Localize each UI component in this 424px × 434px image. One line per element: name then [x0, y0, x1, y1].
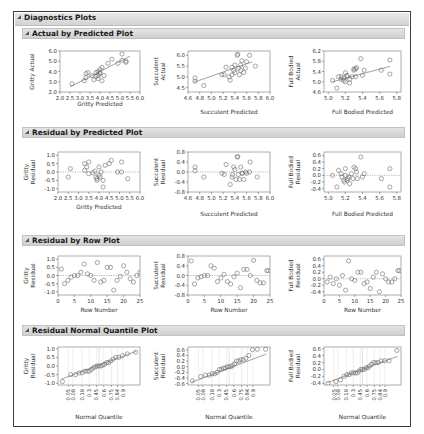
- disclosure-triangle-icon[interactable]: [17, 15, 21, 19]
- y-axis-label: Residual: [160, 353, 166, 378]
- x-tick-label: 0.3: [216, 389, 222, 397]
- y-tick-label: 0.4: [176, 263, 185, 269]
- x-axis-label: Row Number: [210, 307, 248, 313]
- y-axis-label: Actual: [295, 62, 301, 81]
- x-tick-label: 4.8: [195, 195, 204, 201]
- x-axis-label: Normal Quantile: [205, 414, 253, 420]
- y-axis-label: Full Bodied: [288, 259, 294, 291]
- x-tick-label: 5.6: [242, 195, 251, 201]
- x-axis-label: Row Number: [344, 307, 382, 313]
- gritty-actual-by-predicted-plot[interactable]: 2.03.04.05.06.02.02.53.03.54.04.55.05.56…: [14, 40, 146, 120]
- x-tick-label: 5.0: [324, 195, 333, 201]
- y-tick-label: 0.0: [312, 276, 321, 282]
- x-tick-label: 0.9: [382, 389, 388, 397]
- x-tick-label: 0.45: [357, 389, 363, 401]
- x-tick-label: 0.08: [200, 389, 206, 401]
- section-header-residual-by-predicted[interactable]: Residual by Predicted Plot: [22, 127, 405, 138]
- y-tick-label: 6.0: [176, 52, 185, 58]
- y-tick-label: 0.5: [46, 264, 55, 270]
- x-tick-label: 25: [267, 298, 274, 304]
- x-tick-label: 2.0: [56, 95, 65, 101]
- succulent-actual-by-predicted-plot[interactable]: 4.55.05.56.04.64.85.05.25.45.65.86.0Succ…: [146, 40, 281, 120]
- y-tick-label: 0.4: [312, 263, 321, 269]
- y-tick-label: 6.0: [48, 48, 57, 54]
- y-axis-label: Residual: [30, 353, 36, 378]
- y-tick-label: 5.4: [312, 69, 321, 75]
- y-axis-label: Gritty: [23, 163, 30, 180]
- x-tick-label: 5.4: [231, 95, 240, 101]
- x-tick-label: 2.5: [66, 95, 75, 101]
- x-axis-label: Gritty Predicted: [77, 101, 123, 108]
- x-tick-label: 0.6: [101, 389, 107, 397]
- y-tick-label: 0.0: [46, 169, 55, 175]
- x-tick-label: 5.6: [375, 95, 384, 101]
- y-tick-label: -0.8: [174, 292, 185, 298]
- gritty-normal-quantile-plot[interactable]: -1.0-0.50.00.51.00.050.080.180.30.450.60…: [14, 337, 146, 427]
- x-tick-label: 0: [186, 298, 190, 304]
- y-axis-label: Residual: [160, 159, 166, 184]
- diagnostics-plots-header[interactable]: Diagnostics Plots: [15, 13, 409, 26]
- disclosure-triangle-icon[interactable]: [25, 328, 29, 332]
- y-axis-label: Gritty: [23, 357, 30, 374]
- x-tick-label: 20: [250, 298, 257, 304]
- y-axis-label: Succulent: [153, 157, 159, 186]
- y-tick-label: -0.4: [174, 282, 185, 288]
- disclosure-triangle-icon[interactable]: [25, 31, 29, 35]
- gritty-residual-by-row-plot[interactable]: -1.0-0.50.00.51.00510152025GrittyResidua…: [14, 246, 146, 316]
- y-axis-label: Residual: [295, 159, 301, 184]
- succulent-residual-by-predicted-plot[interactable]: -0.8-0.40.00.40.84.64.85.05.25.45.65.86.…: [146, 140, 281, 225]
- x-tick-label: 25: [398, 298, 405, 304]
- y-tick-label: 0.0: [46, 273, 55, 279]
- x-tick-label: 20: [120, 298, 127, 304]
- y-tick-label: 0.4: [312, 159, 321, 165]
- x-tick-label: 0.45: [223, 389, 229, 401]
- section-header-residual-normal-quantile[interactable]: Residual Normal Quantile Plot: [22, 325, 405, 336]
- x-tick-label: 4.5: [105, 195, 114, 201]
- full-bodied-residual-by-row-plot[interactable]: -0.4-0.20.00.20.40.60510152025Full Bodie…: [281, 246, 411, 316]
- y-tick-label: 0.0: [46, 363, 55, 369]
- y-tick-label: 5.8: [312, 58, 321, 64]
- y-tick-label: 3.0: [48, 79, 57, 85]
- full-bodied-residual-by-predicted-plot[interactable]: -0.4-0.20.00.20.40.65.05.25.45.65.8Full …: [281, 140, 411, 225]
- y-axis-label: Residual: [160, 263, 166, 288]
- x-tick-label: 3.0: [74, 195, 83, 201]
- y-axis-label: Full Bodied: [288, 350, 294, 382]
- x-tick-label: 5.0: [324, 95, 333, 101]
- x-tick-label: 0.6: [231, 389, 237, 397]
- y-axis-label: Succulent: [153, 351, 159, 380]
- x-tick-label: 5.8: [392, 195, 401, 201]
- y-tick-label: 0.4: [176, 159, 185, 165]
- section-header-residual-by-row[interactable]: Residual by Row Plot: [22, 235, 405, 246]
- x-tick-label: 5.4: [358, 95, 367, 101]
- disclosure-triangle-icon[interactable]: [25, 238, 29, 242]
- x-tick-label: 0.45: [93, 389, 99, 401]
- y-tick-label: -0.5: [44, 372, 55, 378]
- y-tick-label: -0.4: [310, 186, 321, 192]
- section-title: Actual by Predicted Plot: [32, 28, 133, 40]
- x-tick-label: 15: [367, 298, 374, 304]
- section-header-actual-by-predicted[interactable]: Actual by Predicted Plot: [22, 28, 405, 39]
- y-tick-label: -1.0: [44, 380, 55, 386]
- x-tick-label: 0.18: [79, 389, 85, 401]
- x-tick-label: 15: [234, 298, 241, 304]
- x-tick-label: 6.0: [266, 195, 275, 201]
- succulent-normal-quantile-plot[interactable]: -0.6-0.4-0.20.00.20.40.60.050.080.180.30…: [146, 337, 281, 427]
- x-tick-label: 10: [217, 298, 224, 304]
- disclosure-triangle-icon[interactable]: [25, 130, 29, 134]
- x-tick-label: 10: [87, 298, 94, 304]
- y-tick-label: 1.0: [46, 256, 55, 262]
- succulent-residual-by-row-plot[interactable]: -0.8-0.40.00.40.80510152025SucculentResi…: [146, 246, 281, 316]
- x-axis-label: Succulent Predicted: [200, 211, 258, 217]
- full-bodied-actual-by-predicted-plot[interactable]: 4.65.05.45.86.25.05.25.45.65.8Full Bodie…: [281, 40, 411, 120]
- y-axis-label: Residual: [295, 353, 301, 378]
- gritty-residual-by-predicted-plot[interactable]: -1.0-0.50.00.51.02.02.53.03.54.04.55.05.…: [14, 140, 146, 220]
- y-tick-label: -0.5: [44, 281, 55, 287]
- x-tick-label: 0: [322, 298, 326, 304]
- x-tick-label: 5.0: [115, 195, 124, 201]
- x-axis-label: Full Bodied Predicted: [332, 109, 393, 115]
- x-tick-label: 5.4: [358, 195, 367, 201]
- y-axis-label: Gritty: [23, 267, 30, 284]
- x-tick-label: 5.5: [126, 95, 135, 101]
- y-axis-label: Succulent: [153, 57, 159, 86]
- full-bodied-normal-quantile-plot[interactable]: -0.4-0.20.00.20.40.60.050.080.180.30.450…: [281, 337, 411, 427]
